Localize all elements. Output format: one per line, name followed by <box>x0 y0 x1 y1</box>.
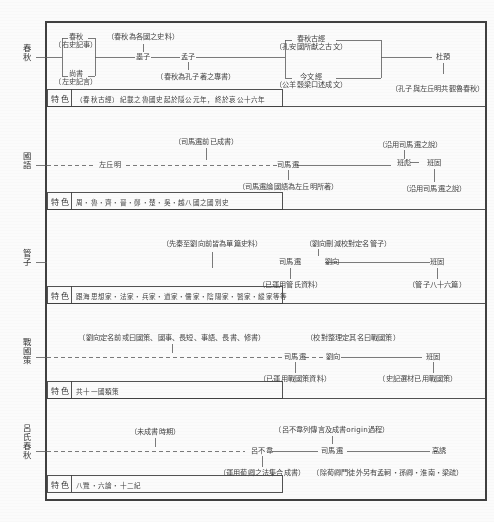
feature-label-chunqiu: 特色 <box>51 93 71 104</box>
annot-lv-buwei-compilation: （呂不韋列傳言及成書origin過程） <box>274 426 389 434</box>
node-lv-buwei: 呂不韋 <box>251 447 273 455</box>
feature-label-lvshichunqiu: 特色 <box>51 479 71 490</box>
annot-used-zhanguoce-material: （已運用戰國策資料） <box>259 375 331 383</box>
annot-bangu-follows-sima: （沿用司馬遷之說） <box>402 185 467 193</box>
section-label-zhanguoce: 戰國策 <box>22 338 30 365</box>
section-label-guoyu: 國語 <box>22 152 30 170</box>
node-line-2: （孔安國所獻之古文） <box>275 43 347 51</box>
annot-confucius-zuoqiuming: （孔子與左丘明共觀魯春秋） <box>391 85 485 93</box>
annot-liuxiang-named-zhanguoce: （校對整理定其名曰戰國策） <box>306 334 400 342</box>
annot-sima-qian-already-book: （司馬遷前已成書） <box>174 138 239 146</box>
node-liuxiang-sec4: 劉向 <box>326 353 340 361</box>
node-mozi: 墨子 <box>136 53 150 61</box>
annot-gaoyou-school: （除荀卿門徒外另有孟軻・孫卿・淮南・梁疏） <box>312 469 463 477</box>
annot-chunqiu-confucius-book: （春秋為孔子著之專書） <box>156 73 235 81</box>
feature-text-chunqiu: （春秋古經）紀載之魯國史起於隱公元年，終於哀公十六年 <box>76 94 266 104</box>
node-sima-qian-sec3: 司馬遷 <box>279 258 301 266</box>
annot-used-xunqing-collection: （運用荀卿之法集合成書） <box>219 469 305 477</box>
node-chunqiu-right-historian: 春秋 （右史記事） <box>54 33 97 50</box>
node-sima-qian-sec5: 司馬遷 <box>321 447 343 455</box>
feature-label-guanzi: 特色 <box>51 290 71 301</box>
annot-guanzi-86-chapters: （管子八十六篇） <box>408 281 466 289</box>
feature-text-lvshichunqiu: 八覽・六論・十二紀 <box>76 480 142 490</box>
annot-unfinished-period: （未成書時期） <box>130 428 180 436</box>
node-mengzi: 孟子 <box>181 53 195 61</box>
node-sima-qian-sec2: 司馬遷 <box>277 161 299 169</box>
annot-chunqiu-states-history: （春秋為各國之史料） <box>107 33 179 41</box>
section-label-chunqiu: 春秋 <box>22 44 30 62</box>
feature-label-guoyu: 特色 <box>51 196 71 207</box>
section-label-guanzi: 管子 <box>22 249 30 267</box>
node-jinwen-school: 今文經 （公羊穀梁口述成文） <box>275 73 347 90</box>
annot-banbiao-follows-sima: （沿用司馬遷之說） <box>378 141 443 149</box>
node-guwen-school: 春秋古經 （孔安國所獻之古文） <box>275 35 347 52</box>
node-line-2: （右史記事） <box>54 41 97 49</box>
annot-shiji-used-zhanguoce: （史記選材已用戰國策） <box>378 375 457 383</box>
node-bangu-sec4: 班固 <box>426 353 440 361</box>
feature-text-zhanguoce: 共十一國類策 <box>76 386 120 396</box>
feature-text-guoyu: 周・魯・齊・晉・鄭・楚・吳・越八國之國別史 <box>76 197 229 207</box>
node-line-2: （左史記言） <box>54 78 97 86</box>
annot-sima-qian-authorship: （司馬遷論國語為左丘明所著） <box>238 183 339 191</box>
section-label-lvshichunqiu: 呂氏春秋 <box>22 424 30 460</box>
annot-liuxiang-edit-named: （劉向刪減校對定名管子） <box>305 240 391 248</box>
node-banbiao: 班彪 <box>397 159 411 167</box>
annot-preqin-liuxiang-source: （先秦至劉向前皆為單篇史料） <box>162 240 263 248</box>
node-line-2: （公羊穀梁口述成文） <box>275 81 347 89</box>
annot-liuxiang-original-names: （劉向定名前或曰國策、國事、長短、事語、長書、修書） <box>78 334 265 342</box>
node-bangu-sec2: 班固 <box>427 159 441 167</box>
node-duyu-sec1: 杜預 <box>436 53 450 61</box>
node-gaoyou: 高誘 <box>432 447 446 455</box>
lineage-chart-sheet: 春秋 春秋 （右史記事） 尚書 （左史記言） 墨子 孟子 （春秋為各國之史料） … <box>0 0 494 522</box>
node-liuxiang-sec3: 劉向 <box>325 258 339 266</box>
feature-text-guanzi: 跟海思想家・法家・兵家・道家・儒家・陰陽家・醫家・縱家等等 <box>76 291 288 301</box>
annot-used-guanzi-material: （已運用管氏資料） <box>258 281 323 289</box>
node-zuoqiuming: 左丘明 <box>99 161 121 169</box>
feature-label-zhanguoce: 特色 <box>51 385 71 396</box>
node-sima-qian-sec4: 司馬遷 <box>284 353 306 361</box>
node-shangshu-left-historian: 尚書 （左史記言） <box>54 70 97 87</box>
node-bangu-sec3: 班固 <box>430 258 444 266</box>
